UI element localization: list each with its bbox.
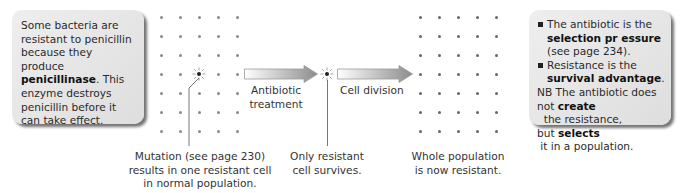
info-line: penicillin before it: [21, 101, 138, 115]
bacterium-dot: [438, 16, 441, 19]
bacterium-dot: [495, 35, 498, 38]
bacterium-dot: [419, 35, 422, 38]
bacterium-dot: [419, 73, 422, 76]
bacterium-dot: [438, 35, 441, 38]
bacterium-dot: [179, 35, 182, 38]
bacterium-dot: [457, 54, 460, 57]
bacterium-dot: [438, 54, 441, 57]
bacterium-dot: [476, 16, 479, 19]
bacterium-dot: [198, 16, 201, 19]
bacterium-dot: [476, 111, 479, 114]
bacterium-dot: [236, 130, 239, 133]
bacterium-dot: [438, 92, 441, 95]
bacterium-dot: [495, 130, 498, 133]
bacterium-dot: [160, 35, 163, 38]
info-line: Some bacteria are: [21, 19, 138, 33]
bacterium-dot: [457, 73, 460, 76]
surviving-resistant-cell-icon: [320, 67, 334, 81]
info-line: enzyme destroys: [21, 87, 138, 101]
bacterium-dot: [419, 54, 422, 57]
bacterium-dot: [179, 130, 182, 133]
selection-pressure-term: selection pr essure: [547, 32, 661, 44]
selection-pressure-info-box: The antibiotic is the selection pr essur…: [529, 10, 671, 125]
bacterium-dot: [217, 130, 220, 133]
info-line: because they produce: [21, 46, 138, 73]
bacterium-dot: [179, 111, 182, 114]
bacterium-dot: [198, 54, 201, 57]
whole-population-caption: Whole population is now resistant.: [408, 150, 508, 177]
bacterium-dot: [457, 92, 460, 95]
bacterium-dot: [236, 54, 239, 57]
bacterium-dot: [495, 92, 498, 95]
bacterium-dot: [495, 54, 498, 57]
info-line: resistant to penicillin: [21, 33, 138, 47]
nb-note: NB The antibiotic does not create the re…: [537, 86, 667, 154]
antibiotic-treatment-arrow-icon: [244, 65, 318, 83]
bacterium-dot: [419, 130, 422, 133]
bacterium-dot: [476, 130, 479, 133]
survivor-caption: Only resistant cell survives.: [277, 150, 377, 177]
survival-advantage-term: survival advantage: [547, 72, 661, 84]
bacterium-dot: [476, 73, 479, 76]
bacterium-dot: [495, 16, 498, 19]
bacterium-dot: [476, 92, 479, 95]
cell-division-arrow-icon: [337, 65, 413, 83]
bacterium-dot: [419, 111, 422, 114]
bacterium-dot: [160, 73, 163, 76]
bacterium-dot: [236, 111, 239, 114]
bacterium-dot: [438, 73, 441, 76]
bullet-selection-pressure: The antibiotic is the selection pr essur…: [537, 18, 667, 59]
bacterium-dot: [476, 35, 479, 38]
bacterium-dot: [217, 92, 220, 95]
bullet-survival-advantage: Resistance is the survival advantage.: [537, 59, 667, 86]
bacterium-dot: [160, 16, 163, 19]
bacterium-dot: [438, 130, 441, 133]
bacterium-dot: [236, 35, 239, 38]
bacterium-dot: [217, 16, 220, 19]
survivor-pointer-line: [327, 80, 328, 146]
bacterium-dot: [495, 111, 498, 114]
bacterium-dot: [457, 130, 460, 133]
bacterium-dot: [495, 73, 498, 76]
bacterium-dot: [236, 92, 239, 95]
bacterium-dot: [236, 16, 239, 19]
mutation-caption: Mutation (see page 230) results in one r…: [110, 150, 290, 191]
info-line: can take effect.: [21, 114, 138, 128]
bacterium-dot: [160, 92, 163, 95]
penicillinase-info-box: Some bacteria are resistant to penicilli…: [12, 10, 144, 124]
bacterium-dot: [179, 92, 182, 95]
cell-division-label: Cell division: [340, 84, 412, 98]
bacterium-dot: [217, 111, 220, 114]
bacterium-dot: [438, 111, 441, 114]
bacterium-dot: [198, 130, 201, 133]
bacterium-dot: [419, 16, 422, 19]
bacterium-dot: [179, 16, 182, 19]
bacterium-dot: [476, 54, 479, 57]
bacterium-dot: [217, 54, 220, 57]
info-line: penicillinase. This: [21, 73, 138, 87]
bacterium-dot: [160, 54, 163, 57]
antibiotic-treatment-label: Antibiotic treatment: [244, 84, 308, 111]
bacterium-dot: [217, 35, 220, 38]
bacterium-dot: [198, 35, 201, 38]
bacterium-dot: [179, 73, 182, 76]
bacterium-dot: [198, 92, 201, 95]
bacterium-dot: [457, 111, 460, 114]
penicillinase-term: penicillinase: [21, 73, 96, 85]
bacterium-dot: [217, 73, 220, 76]
bacterium-dot: [236, 73, 239, 76]
bacterium-dot: [160, 130, 163, 133]
bacterium-dot: [457, 16, 460, 19]
bacterium-dot: [179, 54, 182, 57]
bacterium-dot: [160, 111, 163, 114]
bacterium-dot: [419, 92, 422, 95]
bacterium-dot: [198, 111, 201, 114]
bacterium-dot: [457, 35, 460, 38]
